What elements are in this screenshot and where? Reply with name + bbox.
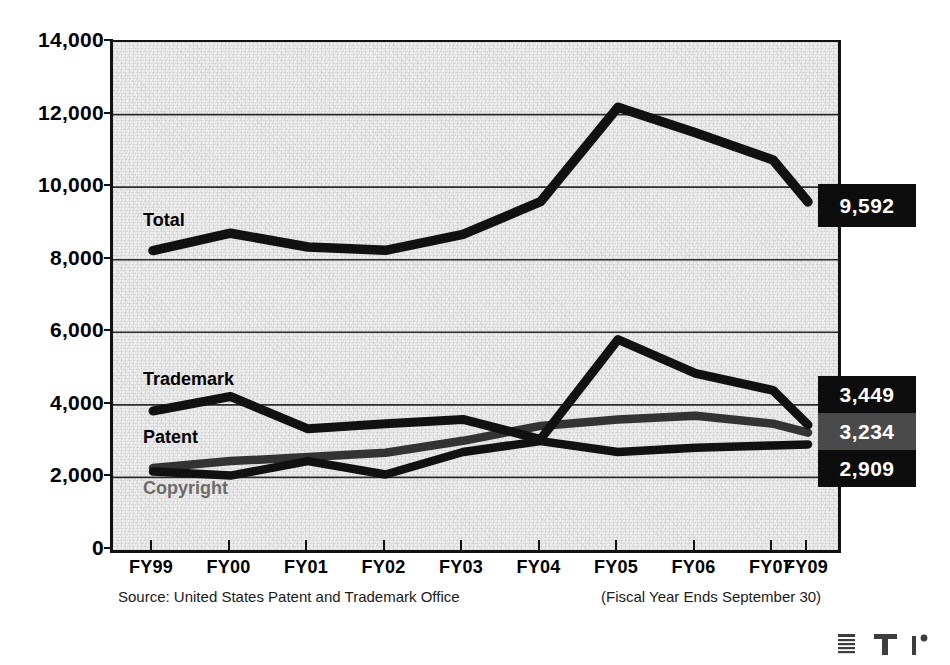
x-tick-label-fy05: FY05 <box>594 557 638 578</box>
fiscal-year-note: (Fiscal Year Ends September 30) <box>601 588 821 605</box>
y-tick-label-12000: 12,000 <box>8 101 104 125</box>
y-tick-label-14000: 14,000 <box>8 28 104 52</box>
logo-mark-icon <box>836 634 950 665</box>
y-tick-label-8000: 8,000 <box>8 246 104 270</box>
value-box-patent: 3,234 <box>818 413 916 450</box>
x-tick-label-fy01: FY01 <box>284 557 328 578</box>
x-tick-mark-fy04 <box>538 540 540 551</box>
value-box-copyright: 2,909 <box>818 450 916 487</box>
x-tick-mark-fy01 <box>305 540 307 551</box>
x-tick-label-fy00: FY00 <box>207 557 251 578</box>
series-line-trademark <box>153 340 808 440</box>
y-tick-label-0: 0 <box>8 536 104 560</box>
value-box-trademark: 3,449 <box>818 376 916 413</box>
x-tick-label-fy09: FY09 <box>784 557 828 578</box>
y-tick-label-10000: 10,000 <box>8 173 104 197</box>
series-line-total <box>153 107 808 250</box>
x-tick-mark-fy06 <box>693 540 695 551</box>
plot-area: Total Trademark Patent Copyright <box>110 40 841 553</box>
x-tick-mark-fy03 <box>460 540 462 551</box>
y-axis: 14,000 12,000 10,000 8,000 6,000 4,000 2… <box>0 40 104 548</box>
y-tick-label-4000: 4,000 <box>8 391 104 415</box>
x-tick-mark-fy05 <box>615 540 617 551</box>
publisher-logo <box>836 634 950 665</box>
value-box-total: 9,592 <box>818 184 916 227</box>
x-tick-label-fy06: FY06 <box>672 557 716 578</box>
series-annotation-copyright: Copyright <box>143 478 228 499</box>
source-note: Source: United States Patent and Tradema… <box>118 588 460 605</box>
series-annotation-patent: Patent <box>143 427 198 448</box>
series-annotation-trademark: Trademark <box>143 369 234 390</box>
x-tick-mark-fy99 <box>150 540 152 551</box>
y-tick-label-6000: 6,000 <box>8 318 104 342</box>
y-tick-label-2000: 2,000 <box>8 463 104 487</box>
x-tick-label-fy99: FY99 <box>129 557 173 578</box>
x-tick-mark-fy02 <box>383 540 385 551</box>
x-tick-label-fy02: FY02 <box>362 557 406 578</box>
x-tick-label-fy04: FY04 <box>517 557 561 578</box>
series-canvas <box>113 42 838 550</box>
x-axis: FY99 FY00 FY01 FY02 FY03 FY04 FY05 FY06 … <box>110 551 835 587</box>
series-annotation-total: Total <box>143 210 185 231</box>
x-tick-mark-fy00 <box>228 540 230 551</box>
x-tick-label-fy03: FY03 <box>439 557 483 578</box>
chart-root: 14,000 12,000 10,000 8,000 6,000 4,000 2… <box>0 0 950 665</box>
x-tick-mark-fy09 <box>805 540 807 551</box>
x-tick-mark-fy07 <box>770 540 772 551</box>
